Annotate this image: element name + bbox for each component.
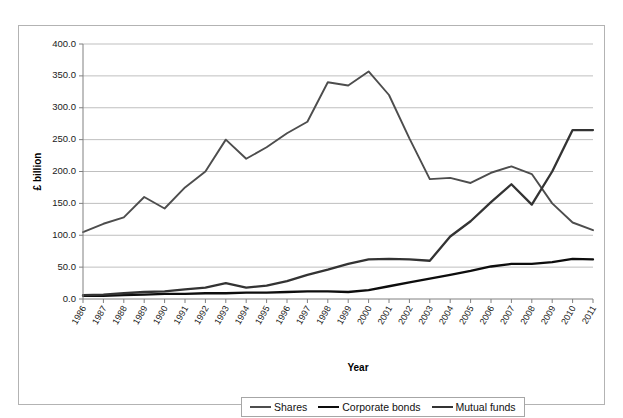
chart-legend: SharesCorporate bondsMutual funds [241, 397, 525, 417]
legend-label: Corporate bonds [342, 401, 420, 413]
series-line-corporate-bonds [83, 259, 593, 296]
legend-item-corporate-bonds[interactable]: Corporate bonds [318, 401, 420, 413]
y-axis-tick-labels: 0.050.0100.0150.0200.0250.0300.0350.0400… [52, 38, 76, 304]
x-tick-label: 1990 [151, 304, 170, 326]
line-chart: 0.050.0100.0150.0200.0250.0300.0350.0400… [19, 26, 604, 404]
x-tick-label: 1993 [212, 304, 231, 326]
x-tick-label: 1994 [233, 304, 252, 326]
legend-item-mutual-funds[interactable]: Mutual funds [432, 401, 516, 413]
y-tick-label: 300.0 [52, 101, 76, 112]
x-axis-tick-labels: 1986198719881989199019911992199319941995… [70, 304, 599, 326]
y-axis-ticks [79, 44, 83, 299]
x-tick-label: 1998 [314, 304, 333, 326]
y-tick-label: 200.0 [52, 165, 76, 176]
x-tick-label: 2007 [498, 304, 517, 326]
y-tick-label: 150.0 [52, 197, 76, 208]
x-tick-label: 2008 [518, 304, 537, 326]
x-tick-label: 1986 [70, 304, 89, 326]
y-tick-label: 50.0 [58, 261, 77, 272]
y-tick-label: 400.0 [52, 38, 76, 49]
y-tick-label: 250.0 [52, 133, 76, 144]
x-tick-label: 1991 [172, 304, 191, 326]
gridlines [83, 44, 593, 267]
legend-item-shares[interactable]: Shares [250, 401, 307, 413]
legend-swatch-line-icon [250, 406, 271, 408]
x-tick-label: 2009 [539, 304, 558, 326]
x-tick-label: 2005 [457, 304, 476, 326]
x-tick-label: 1987 [90, 304, 109, 326]
legend-swatch-line-icon [432, 406, 453, 408]
x-tick-label: 2004 [437, 304, 456, 326]
x-tick-label: 1988 [110, 304, 129, 326]
x-tick-label: 1992 [192, 304, 211, 326]
data-series [83, 71, 593, 295]
y-tick-label: 0.0 [63, 293, 76, 304]
x-tick-label: 2001 [376, 304, 395, 326]
x-tick-label: 2006 [478, 304, 497, 326]
y-tick-label: 100.0 [52, 229, 76, 240]
legend-label: Shares [274, 401, 307, 413]
legend-label: Mutual funds [456, 401, 516, 413]
legend-swatch-line-icon [318, 406, 339, 408]
y-tick-label: 350.0 [52, 69, 76, 80]
series-line-mutual-funds [83, 130, 593, 295]
x-tick-label: 1996 [274, 304, 293, 326]
x-tick-label: 2010 [559, 304, 578, 326]
series-line-shares [83, 71, 593, 232]
x-tick-label: 1999 [335, 304, 354, 326]
x-tick-label: 1989 [131, 304, 150, 326]
x-tick-label: 2000 [355, 304, 374, 326]
x-axis-title: Year [347, 362, 368, 373]
x-axis-ticks [83, 299, 593, 303]
x-tick-label: 1997 [294, 304, 313, 326]
x-tick-label: 1995 [253, 304, 272, 326]
x-tick-label: 2003 [416, 304, 435, 326]
chart-frame: 0.050.0100.0150.0200.0250.0300.0350.0400… [18, 25, 605, 405]
x-tick-label: 2002 [396, 304, 415, 326]
x-tick-label: 2011 [580, 304, 598, 326]
y-axis-title: £ billion [32, 153, 43, 191]
